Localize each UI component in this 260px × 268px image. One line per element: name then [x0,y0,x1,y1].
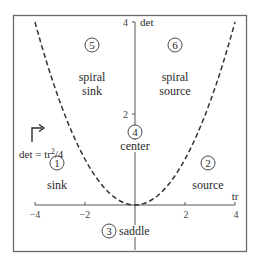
region-number: 1 [54,157,60,169]
region-number: 5 [89,39,95,51]
region-label-line2: sink [82,84,102,98]
tick-label-tr-2: 2 [184,209,189,220]
region-4-center: 4 center [113,125,157,153]
region-label-line1: source [192,178,223,192]
trace-determinant-diagram: −4 −2 2 4 tr 4 2 det det = tr2/4 5 spira… [0,0,260,268]
region-2-source: 2 source [192,156,223,192]
region-number: 2 [205,157,211,169]
tick-label-det-4: 4 [123,17,128,28]
region-3-saddle: 3 saddle [102,224,155,238]
region-number: 4 [132,126,138,138]
tick-label-det-2: 2 [123,109,128,120]
region-1-sink: 1 sink [47,156,67,192]
region-label-line1: center [120,139,149,153]
region-label-line1: saddle [119,224,150,238]
tick-label-tr-neg2: −2 [80,209,91,220]
region-number: 6 [172,39,178,51]
region-label-line1: sink [47,178,67,192]
region-5-spiral-sink: 5 spiral sink [79,38,106,98]
region-label-line1: spiral [79,70,106,84]
tr-axis-label: tr [232,190,239,202]
region-6-spiral-source: 6 spiral source [159,38,190,98]
tick-label-tr-4: 4 [234,209,239,220]
det-axis-label: det [140,16,153,28]
tick-label-tr-neg4: −4 [30,209,41,220]
region-label-line2: source [159,84,190,98]
region-label-line1: spiral [162,70,189,84]
region-number: 3 [106,225,112,237]
